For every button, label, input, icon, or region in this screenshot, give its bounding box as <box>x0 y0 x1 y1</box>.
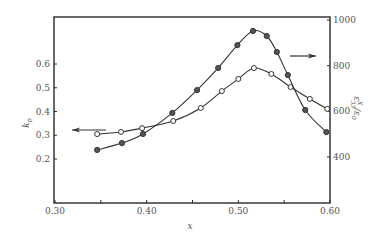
open-circle-marker <box>95 132 100 137</box>
x-axis-label: x <box>187 221 192 231</box>
series-line-permittivity <box>97 31 326 150</box>
right-y-axis-label: εX33/ε0 <box>350 96 364 120</box>
left-y-axis-label: kp <box>21 118 33 127</box>
open-circle-marker <box>219 89 224 94</box>
filled-circle-marker <box>216 65 221 70</box>
filled-circle-marker <box>235 43 240 48</box>
series-line-kp <box>97 68 327 134</box>
left-y-label-sub: p <box>25 118 33 122</box>
left-arrow-icon <box>72 128 106 133</box>
filled-circle-marker <box>119 140 124 145</box>
right-y-axis-ticks: 4006008001000 <box>327 15 356 162</box>
right-y-label-divisor: /ε <box>352 107 362 116</box>
svg-text:εX33/ε0: εX33/ε0 <box>350 96 364 120</box>
filled-circle-marker <box>250 28 255 33</box>
open-circle-marker <box>236 76 241 81</box>
open-circle-marker <box>269 71 274 76</box>
right-y-label-sub0: 0 <box>351 116 358 120</box>
series-kp <box>95 66 330 137</box>
dual-axis-line-chart: 0.300.400.500.60 0.20.30.40.50.6 4006008… <box>0 0 381 243</box>
svg-text:kp: kp <box>21 118 33 127</box>
open-circle-marker <box>325 106 330 111</box>
filled-circle-marker <box>264 33 269 38</box>
left-y-tick-label: 0.6 <box>36 59 51 69</box>
filled-circle-marker <box>324 130 329 135</box>
filled-circle-marker <box>140 131 145 136</box>
right-y-tick-label: 1000 <box>333 15 356 25</box>
series-permittivity <box>95 28 329 152</box>
open-circle-marker <box>140 126 145 131</box>
open-circle-marker <box>251 66 256 71</box>
x-tick-label: 0.40 <box>137 206 157 216</box>
open-circle-marker <box>307 96 312 101</box>
right-arrow-icon <box>290 54 316 59</box>
right-y-label-sub: 33 <box>350 100 357 108</box>
open-circle-marker <box>171 119 176 124</box>
filled-circle-marker <box>194 87 199 92</box>
right-y-tick-label: 600 <box>333 106 350 116</box>
data-series <box>95 28 330 152</box>
open-circle-marker <box>198 105 203 110</box>
plot-border <box>54 17 330 203</box>
open-circle-marker <box>119 129 124 134</box>
right-y-tick-label: 400 <box>333 152 350 162</box>
x-tick-label: 0.50 <box>228 206 248 216</box>
left-y-tick-label: 0.2 <box>36 154 50 164</box>
plot-frame <box>54 17 330 203</box>
x-tick-label: 0.60 <box>320 206 340 216</box>
filled-circle-marker <box>303 107 308 112</box>
left-y-tick-label: 0.3 <box>36 130 51 140</box>
right-y-tick-label: 800 <box>333 61 350 71</box>
left-y-tick-label: 0.4 <box>36 107 51 117</box>
x-tick-label: 0.30 <box>45 206 65 216</box>
filled-circle-marker <box>274 49 279 54</box>
filled-circle-marker <box>285 72 290 77</box>
filled-circle-marker <box>95 147 100 152</box>
left-y-tick-label: 0.5 <box>36 83 51 93</box>
filled-circle-marker <box>170 110 175 115</box>
right-y-label-sup: X <box>357 100 364 106</box>
